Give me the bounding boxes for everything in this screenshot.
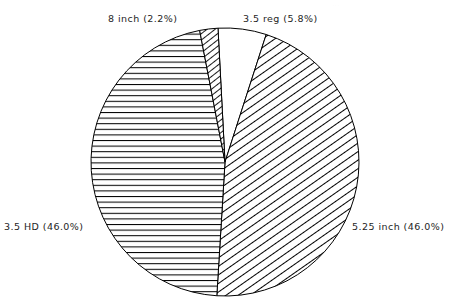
pie-chart: ... 8 inch (2.2%) 3.5 reg (5.8%) 3.5 HD …	[0, 0, 449, 304]
pie-chart-canvas	[0, 0, 449, 304]
slice-label-8-inch: 8 inch (2.2%)	[108, 13, 177, 25]
slice-label-3-5-hd: 3.5 HD (46.0%)	[4, 221, 84, 233]
slice-label-5-25-inch: 5.25 inch (46.0%)	[352, 221, 444, 233]
top-edge-artifact: ...	[332, 0, 384, 6]
pie-slice-3-5-hd	[91, 30, 225, 295]
pie-slice-5-25-inch	[217, 34, 359, 296]
pie-slices	[91, 28, 359, 296]
slice-label-3-5-reg: 3.5 reg (5.8%)	[243, 13, 318, 25]
